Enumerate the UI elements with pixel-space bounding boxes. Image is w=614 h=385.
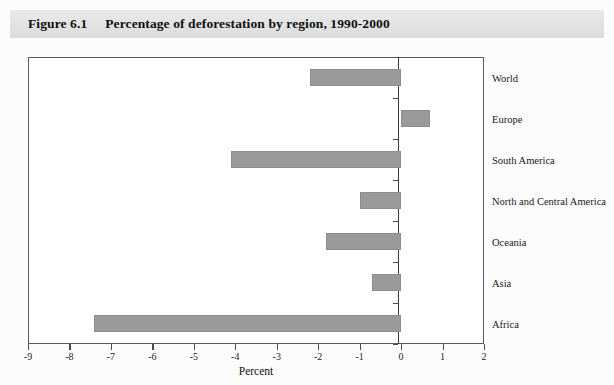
x-axis-tick xyxy=(235,344,236,350)
category-tick xyxy=(393,303,398,304)
bar-south-america xyxy=(231,151,401,168)
category-label-south-america: South America xyxy=(492,154,555,165)
bar-asia xyxy=(372,274,401,291)
category-label-north-and-central-america: North and Central America xyxy=(492,195,606,206)
x-axis-tick xyxy=(69,344,70,350)
category-label-asia: Asia xyxy=(492,277,511,288)
bar-oceania xyxy=(326,233,401,250)
x-axis-tick xyxy=(401,344,402,350)
x-axis-tick-label: -5 xyxy=(190,351,198,362)
x-axis-tick-label: -6 xyxy=(148,351,156,362)
category-label-africa: Africa xyxy=(492,318,519,329)
x-axis-tick-label: -7 xyxy=(107,351,115,362)
x-axis-tick-label: -4 xyxy=(231,351,239,362)
category-tick xyxy=(393,98,398,99)
figure-title: Percentage of deforestation by region, 1… xyxy=(105,16,390,31)
x-axis-tick xyxy=(111,344,112,350)
x-axis-tick xyxy=(152,344,153,350)
x-axis-tick xyxy=(277,344,278,350)
figure-header-band: Figure 6.1Percentage of deforestation by… xyxy=(10,10,604,38)
x-axis-tick-label: -9 xyxy=(24,351,32,362)
figure-caption: Figure 6.1Percentage of deforestation by… xyxy=(28,16,390,32)
x-axis-tick-label: -8 xyxy=(65,351,73,362)
category-tick xyxy=(393,262,398,263)
category-tick xyxy=(393,180,398,181)
x-axis-tick xyxy=(443,344,444,350)
category-tick xyxy=(393,344,398,345)
x-axis-tick-label: 1 xyxy=(440,351,445,362)
x-axis-title: Percent xyxy=(239,365,273,377)
category-tick xyxy=(393,57,398,58)
category-label-europe: Europe xyxy=(492,113,522,124)
x-axis-tick xyxy=(194,344,195,350)
x-axis-tick-label: 2 xyxy=(482,351,487,362)
x-axis-tick xyxy=(484,344,485,350)
x-axis-tick xyxy=(318,344,319,350)
x-axis-tick xyxy=(360,344,361,350)
x-axis-tick-label: -3 xyxy=(273,351,281,362)
bar-africa xyxy=(94,315,401,332)
x-axis-tick-label: -1 xyxy=(355,351,363,362)
figure-page: Figure 6.1Percentage of deforestation by… xyxy=(0,0,614,385)
category-label-oceania: Oceania xyxy=(492,236,526,247)
x-axis-tick-label: 0 xyxy=(399,351,404,362)
category-tick xyxy=(393,139,398,140)
x-axis-tick xyxy=(28,344,29,350)
bar-north-and-central-america xyxy=(360,192,401,209)
x-axis-tick-label: -2 xyxy=(314,351,322,362)
bar-europe xyxy=(401,110,430,127)
category-label-world: World xyxy=(492,72,518,83)
bar-world xyxy=(310,69,401,86)
figure-number: Figure 6.1 xyxy=(28,16,87,31)
category-tick xyxy=(393,221,398,222)
